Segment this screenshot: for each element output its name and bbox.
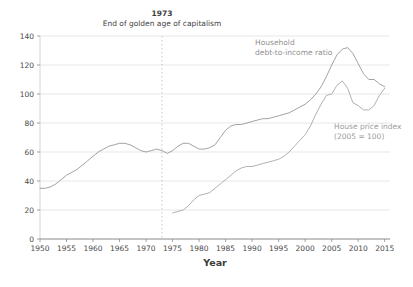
x-tick-label: 2010 [349, 244, 368, 253]
x-tick-label: 2015 [375, 244, 394, 253]
chart-container: 0204060801001201401950195519601965197019… [0, 0, 413, 287]
x-tick-label: 1995 [269, 244, 288, 253]
annotation-text: End of golden age of capitalism [103, 19, 222, 29]
series-line-0 [40, 48, 385, 189]
x-tick-label: 1970 [137, 244, 156, 253]
y-tick-label: 0 [29, 235, 34, 244]
series-label-house-price: House price index (2005 = 100) [334, 122, 401, 142]
y-tick-label: 80 [24, 119, 34, 128]
x-tick-label: 2005 [322, 244, 341, 253]
x-tick-label: 1975 [163, 244, 182, 253]
x-axis-title: Year [203, 257, 227, 268]
y-tick-label: 120 [20, 61, 35, 70]
x-tick-label: 1985 [216, 244, 235, 253]
series-label-debt-line2: debt-to-income ratio [255, 48, 332, 58]
annotation-1973: 1973 End of golden age of capitalism [103, 9, 222, 29]
y-tick-label: 20 [24, 206, 34, 215]
series-label-hpi-line1: House price index [334, 122, 401, 132]
x-tick-label: 1980 [190, 244, 209, 253]
x-tick-label: 1990 [243, 244, 262, 253]
series-label-debt-line1: Household [255, 38, 332, 48]
x-tick-label: 1950 [30, 244, 49, 253]
y-tick-label: 40 [24, 177, 34, 186]
series-line-1 [173, 81, 385, 213]
annotation-year: 1973 [103, 9, 222, 19]
y-tick-label: 60 [24, 148, 34, 157]
x-tick-label: 1960 [83, 244, 102, 253]
series-label-hpi-line2: (2005 = 100) [334, 132, 401, 142]
series-label-debt-ratio: Household debt-to-income ratio [255, 38, 332, 58]
x-tick-label: 2000 [296, 244, 315, 253]
x-tick-label: 1955 [57, 244, 76, 253]
y-tick-label: 140 [20, 32, 35, 41]
line-chart: 0204060801001201401950195519601965197019… [0, 0, 413, 287]
y-tick-label: 100 [20, 90, 35, 99]
x-tick-label: 1965 [110, 244, 129, 253]
